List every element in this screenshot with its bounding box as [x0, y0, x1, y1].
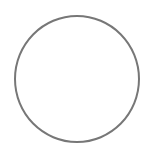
circle-outline-icon — [14, 15, 140, 143]
